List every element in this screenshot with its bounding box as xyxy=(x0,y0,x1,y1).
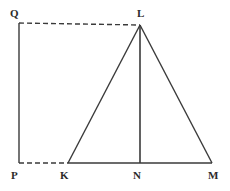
vertex-label-K: K xyxy=(60,170,69,181)
vertex-label-P: P xyxy=(11,170,18,181)
segment-KL xyxy=(68,25,140,163)
vertex-label-Q: Q xyxy=(10,8,19,19)
vertex-label-N: N xyxy=(133,170,141,181)
segments-group xyxy=(19,23,212,163)
vertex-label-L: L xyxy=(137,8,145,19)
segment-LM xyxy=(140,25,212,163)
figure-canvas xyxy=(0,0,230,191)
vertex-label-M: M xyxy=(208,170,219,181)
segment-QL xyxy=(19,23,140,25)
geometry-figure: Q L P K N M xyxy=(0,0,230,191)
